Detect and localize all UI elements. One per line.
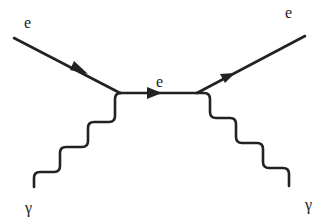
incoming-electron-line — [14, 38, 120, 93]
arrow-icon — [220, 73, 235, 83]
feynman-diagram: e e e γ γ — [0, 0, 328, 224]
internal-electron-label: e — [156, 73, 163, 90]
outgoing-electron-label: e — [285, 4, 292, 21]
outgoing-photon-line — [197, 93, 289, 186]
outgoing-electron-line — [197, 36, 305, 93]
outgoing-photon-label: γ — [304, 196, 312, 214]
incoming-photon-label: γ — [24, 199, 32, 217]
incoming-electron-label: e — [24, 14, 31, 31]
incoming-photon-line — [34, 93, 121, 187]
